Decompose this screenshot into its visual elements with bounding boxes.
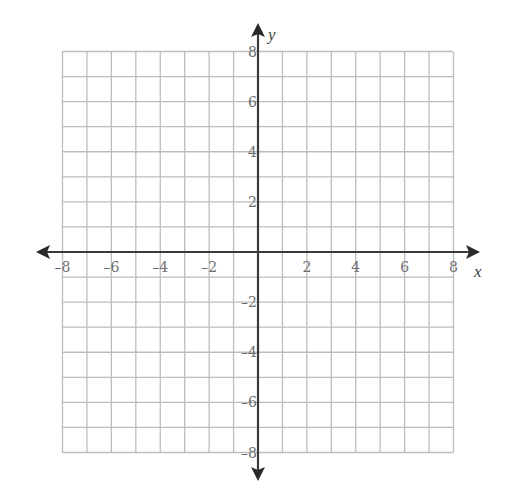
y-tick-label: –4	[241, 344, 257, 360]
y-tick-label: –8	[241, 445, 257, 461]
y-tick-label: 6	[248, 94, 257, 110]
coordinate-plane: –8–6–4–224688642–2–4–6–8 x y	[0, 0, 513, 501]
x-tick-label: –8	[55, 259, 71, 275]
y-tick-label: –2	[241, 294, 257, 310]
y-tick-label: –6	[241, 394, 257, 410]
y-tick-label: 4	[248, 144, 257, 160]
x-tick-label: 2	[302, 259, 311, 275]
x-axis-label: x	[473, 262, 482, 281]
y-axis-label: y	[266, 25, 276, 44]
x-tick-label: –6	[103, 259, 119, 275]
axes	[36, 23, 480, 481]
y-tick-label: 2	[248, 194, 257, 210]
x-tick-label: 8	[449, 259, 458, 275]
x-tick-label: 6	[400, 259, 409, 275]
y-tick-label: 8	[248, 44, 257, 60]
x-tick-label: –2	[201, 259, 217, 275]
x-tick-label: 4	[351, 259, 360, 275]
x-tick-label: –4	[152, 259, 168, 275]
